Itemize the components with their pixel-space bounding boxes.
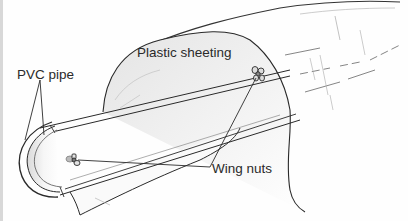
pvc-pipe-end <box>19 122 64 197</box>
illustration: Plastic sheeting PVC pipe Wing nuts <box>0 0 408 221</box>
wing-nut-upper <box>252 67 265 82</box>
label-pvc-pipe: PVC pipe <box>17 67 74 82</box>
pipe-illustration <box>0 0 408 221</box>
label-plastic-sheeting: Plastic sheeting <box>137 45 232 60</box>
dashed-guide-lines <box>285 45 400 110</box>
label-wing-nuts: Wing nuts <box>212 161 272 176</box>
wing-nut-lower <box>66 154 80 166</box>
